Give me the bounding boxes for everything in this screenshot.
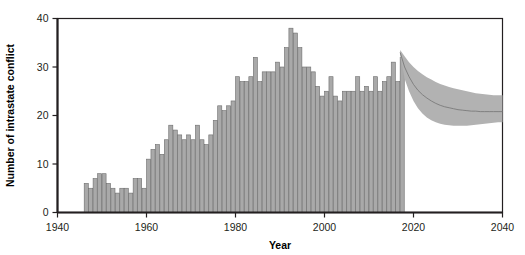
bar-1980 [236, 77, 240, 213]
bar-1992 [289, 28, 293, 212]
bar-1966 [173, 130, 177, 212]
bar-1948 [93, 179, 97, 213]
bar-1956 [129, 193, 133, 212]
y-axis-title: Number of intrastate conflict [4, 44, 16, 187]
bar-1970 [191, 140, 195, 213]
bar-1998 [316, 86, 320, 212]
bar-1981 [240, 82, 244, 213]
bar-2006 [351, 91, 355, 212]
bar-1961 [151, 149, 155, 212]
intrastate-conflict-chart: 010203040194019601980200020202040YearNum… [0, 0, 525, 255]
bar-1982 [244, 82, 248, 213]
bar-1990 [280, 67, 284, 213]
bar-2003 [338, 101, 342, 213]
bar-1971 [195, 125, 199, 212]
bar-1988 [271, 72, 275, 213]
bar-2009 [365, 86, 369, 212]
bar-1954 [120, 188, 124, 212]
bar-1974 [209, 135, 213, 213]
bar-1952 [111, 188, 115, 212]
x-tick-label-1980: 1980 [224, 221, 248, 233]
bar-1997 [311, 72, 315, 213]
bar-1947 [89, 188, 93, 212]
x-tick-label-2000: 2000 [313, 221, 337, 233]
bar-1959 [142, 188, 146, 212]
bar-1995 [302, 67, 306, 213]
bar-2000 [325, 91, 329, 212]
bar-1996 [307, 67, 311, 213]
y-tick-label-40: 40 [37, 12, 49, 24]
x-tick-label-1940: 1940 [46, 221, 70, 233]
bar-1953 [115, 193, 119, 212]
bar-1946 [84, 183, 88, 212]
bar-1976 [218, 106, 222, 213]
bar-1978 [227, 106, 231, 213]
bar-2012 [378, 91, 382, 212]
bar-1973 [204, 145, 208, 213]
bar-2016 [396, 82, 400, 213]
x-tick-label-2040: 2040 [491, 221, 515, 233]
bar-1969 [187, 135, 191, 213]
bar-1979 [231, 101, 235, 213]
bar-1985 [258, 82, 262, 213]
bar-2005 [347, 91, 351, 212]
bar-2002 [333, 96, 337, 212]
bar-1999 [320, 96, 324, 212]
bar-1949 [98, 174, 102, 213]
bar-1951 [106, 183, 110, 212]
bar-1957 [133, 179, 137, 213]
bar-1964 [164, 140, 168, 213]
bar-2007 [356, 77, 360, 213]
bar-1967 [178, 135, 182, 213]
bar-1950 [102, 174, 106, 213]
bar-2010 [369, 91, 373, 212]
bar-1972 [200, 140, 204, 213]
bar-1994 [298, 48, 302, 213]
bar-1983 [249, 77, 253, 213]
bar-2011 [373, 77, 377, 213]
bar-1991 [284, 48, 288, 213]
bar-1986 [262, 72, 266, 213]
bar-2013 [382, 82, 386, 213]
bar-1987 [267, 72, 271, 213]
y-tick-label-30: 30 [37, 61, 49, 73]
bar-1958 [138, 179, 142, 213]
bar-2015 [391, 62, 395, 212]
bar-1962 [155, 145, 159, 213]
bar-1965 [169, 125, 173, 212]
chart-figure: 010203040194019601980200020202040YearNum… [0, 0, 525, 255]
x-tick-label-2020: 2020 [402, 221, 426, 233]
bar-2001 [329, 77, 333, 213]
bar-1963 [160, 154, 164, 212]
y-tick-label-0: 0 [43, 206, 49, 218]
x-tick-label-1960: 1960 [135, 221, 159, 233]
bar-1984 [253, 57, 257, 212]
bar-1955 [124, 188, 128, 212]
y-tick-label-20: 20 [37, 109, 49, 121]
y-tick-label-10: 10 [37, 158, 49, 170]
bar-1960 [147, 159, 151, 212]
bar-1975 [213, 120, 217, 212]
bar-2008 [360, 91, 364, 212]
bar-1968 [182, 140, 186, 213]
bar-2017 [400, 57, 404, 212]
bar-1989 [276, 62, 280, 212]
bar-1977 [222, 111, 226, 213]
bar-2004 [342, 91, 346, 212]
bar-1993 [293, 33, 297, 212]
x-axis-title: Year [269, 239, 291, 251]
bar-2014 [387, 77, 391, 213]
